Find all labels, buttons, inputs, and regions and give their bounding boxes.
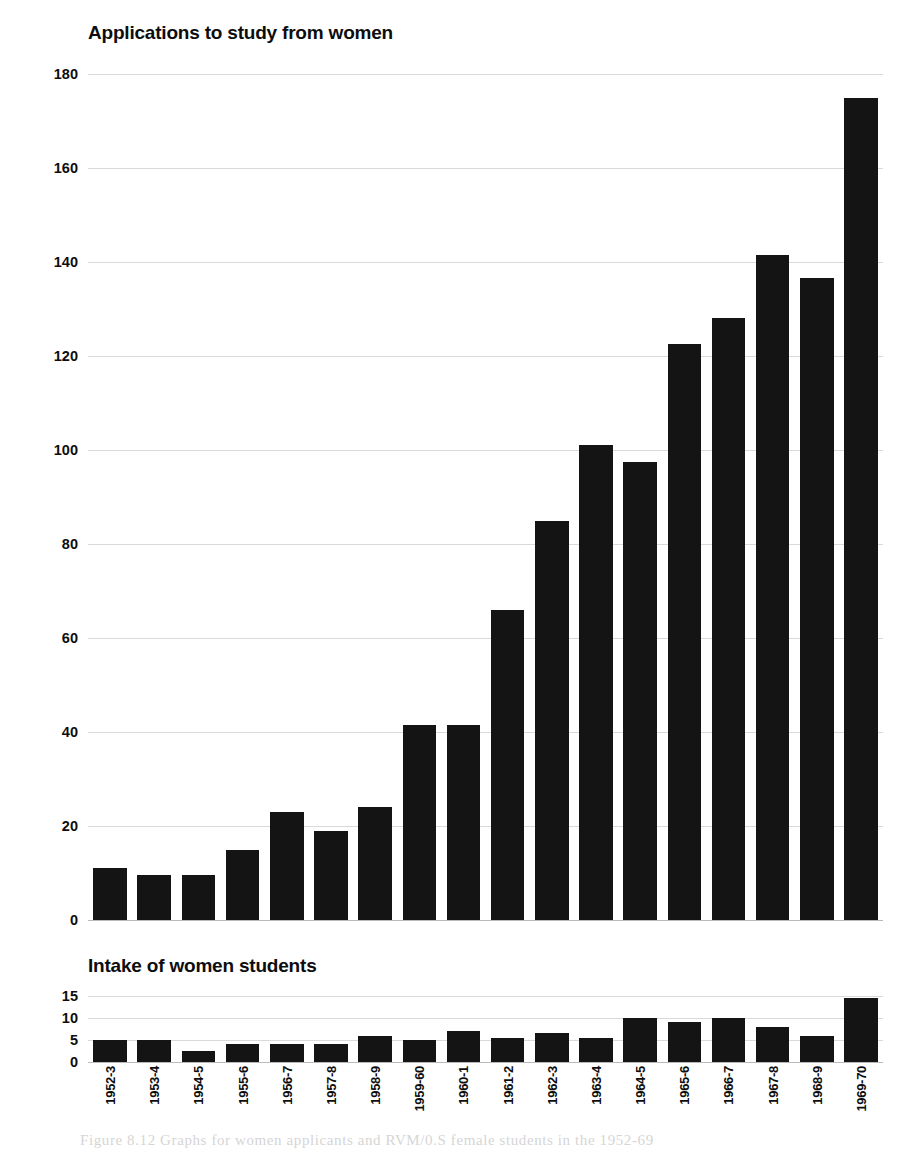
x-tick-label-1967-8: 1967-8	[765, 1066, 780, 1105]
bar-slot	[662, 74, 706, 920]
bar-intake-1959-60	[403, 1040, 437, 1062]
bar-slot	[618, 74, 662, 920]
x-tick-label-1965-6: 1965-6	[677, 1066, 692, 1105]
x-tick-label-1964-5: 1964-5	[633, 1066, 648, 1105]
bar-intake-1969-70	[844, 998, 878, 1062]
y-tick-label-15: 15	[62, 988, 78, 1004]
bar-intake-1968-9	[800, 1036, 834, 1062]
bar-applications-1953-4	[137, 875, 171, 920]
bar-applications-1966-7	[712, 318, 746, 920]
bar-intake-1965-6	[668, 1022, 702, 1062]
bar-slot	[662, 996, 706, 1062]
bar-slot	[132, 74, 176, 920]
x-tick-label-1955-6: 1955-6	[235, 1066, 250, 1105]
bar-slot	[574, 996, 618, 1062]
bar-slot	[397, 996, 441, 1062]
bar-applications-1956-7	[270, 812, 304, 920]
x-tick-label-1956-7: 1956-7	[279, 1066, 294, 1105]
y-tick-label-0: 0	[70, 1054, 78, 1070]
bar-slot	[221, 74, 265, 920]
bar-applications-1963-4	[579, 445, 613, 920]
y-tick-label-140: 140	[54, 254, 78, 270]
y-tick-label-10: 10	[62, 1010, 78, 1026]
gridline-0	[88, 1062, 883, 1063]
bar-intake-1960-1	[447, 1031, 481, 1062]
bar-intake-1954-5	[182, 1051, 216, 1062]
bar-intake-1961-2	[491, 1038, 525, 1062]
bar-slot	[618, 996, 662, 1062]
bar-slot	[530, 996, 574, 1062]
bar-slot	[309, 996, 353, 1062]
bar-applications-1961-2	[491, 610, 525, 920]
bar-slot	[441, 74, 485, 920]
bar-slot	[441, 996, 485, 1062]
bar-slot	[795, 996, 839, 1062]
y-tick-label-20: 20	[62, 818, 78, 834]
bar-series-applications	[88, 74, 883, 920]
y-tick-label-100: 100	[54, 442, 78, 458]
bar-slot	[176, 74, 220, 920]
y-tick-label-80: 80	[62, 536, 78, 552]
bar-applications-1952-3	[93, 868, 127, 920]
bar-intake-1963-4	[579, 1038, 613, 1062]
x-tick-label-1968-9: 1968-9	[809, 1066, 824, 1105]
bar-slot	[839, 996, 883, 1062]
bar-slot	[353, 996, 397, 1062]
bar-slot	[309, 74, 353, 920]
bar-applications-1968-9	[800, 278, 834, 920]
bar-slot	[486, 996, 530, 1062]
bar-slot	[132, 996, 176, 1062]
figure-caption: Figure 8.12 Graphs for women applicants …	[80, 1132, 880, 1154]
bar-slot	[486, 74, 530, 920]
bar-applications-1967-8	[756, 255, 790, 920]
bar-slot	[176, 996, 220, 1062]
bar-slot	[88, 74, 132, 920]
bar-slot	[795, 74, 839, 920]
x-tick-label-1958-9: 1958-9	[368, 1066, 383, 1105]
chart-title-intake: Intake of women students	[88, 955, 317, 977]
y-tick-label-160: 160	[54, 160, 78, 176]
bar-intake-1956-7	[270, 1044, 304, 1062]
plot-area-applications	[88, 74, 883, 920]
bar-applications-1958-9	[358, 807, 392, 920]
bar-applications-1965-6	[668, 344, 702, 920]
gridline-0	[88, 920, 883, 921]
x-tick-label-1961-2: 1961-2	[500, 1066, 515, 1105]
bar-intake-1952-3	[93, 1040, 127, 1062]
y-axis-intake: 051015	[10, 996, 78, 1062]
bar-intake-1957-8	[314, 1044, 348, 1062]
bar-applications-1955-6	[226, 850, 260, 921]
chart-title-applications: Applications to study from women	[88, 22, 393, 44]
bar-intake-1967-8	[756, 1027, 790, 1062]
bar-slot	[530, 74, 574, 920]
bar-series-intake	[88, 996, 883, 1062]
bar-slot	[751, 74, 795, 920]
x-tick-label-1959-60: 1959-60	[412, 1066, 427, 1112]
bar-applications-1959-60	[403, 725, 437, 920]
bar-slot	[353, 74, 397, 920]
bar-applications-1962-3	[535, 521, 569, 921]
y-tick-label-180: 180	[54, 66, 78, 82]
bar-slot	[397, 74, 441, 920]
x-tick-label-1962-3: 1962-3	[544, 1066, 559, 1105]
bar-slot	[265, 996, 309, 1062]
bar-intake-1966-7	[712, 1018, 746, 1062]
figure-page: Applications to study from women 0204060…	[0, 0, 897, 1154]
x-tick-label-1969-70: 1969-70	[854, 1066, 869, 1112]
y-tick-label-120: 120	[54, 348, 78, 364]
x-tick-label-1953-4: 1953-4	[147, 1066, 162, 1105]
bar-slot	[706, 996, 750, 1062]
bar-applications-1957-8	[314, 831, 348, 920]
bar-slot	[751, 996, 795, 1062]
bar-slot	[839, 74, 883, 920]
bar-intake-1958-9	[358, 1036, 392, 1062]
bar-intake-1953-4	[137, 1040, 171, 1062]
x-tick-label-1966-7: 1966-7	[721, 1066, 736, 1105]
bar-applications-1960-1	[447, 725, 481, 920]
bar-slot	[221, 996, 265, 1062]
bar-intake-1964-5	[623, 1018, 657, 1062]
bar-intake-1962-3	[535, 1033, 569, 1062]
plot-area-intake	[88, 996, 883, 1062]
bar-applications-1969-70	[844, 98, 878, 921]
x-tick-label-1952-3: 1952-3	[103, 1066, 118, 1105]
